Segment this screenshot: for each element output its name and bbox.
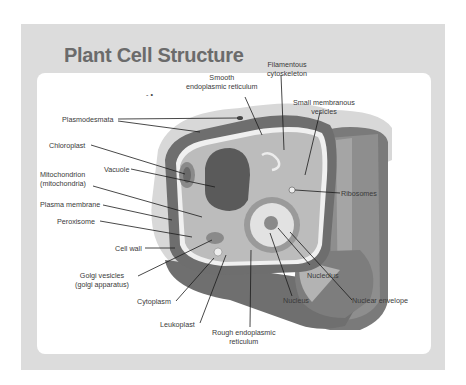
label-cytoplasm: Cytoplasm	[137, 297, 171, 306]
label-golgi-vesicles: Golgi vesicles (golgi apparatus)	[75, 271, 129, 289]
golgi-apparatus	[206, 232, 224, 244]
vacuole	[205, 148, 250, 211]
label-mitochondrion: Mitochondrion (mitochondria)	[40, 170, 86, 188]
nucleolus	[264, 216, 278, 230]
label-peroxisome: Peroxisome	[57, 217, 95, 226]
label-nuclear-envelope: Nuclear envelope	[352, 296, 408, 305]
label-filamentous-cytoskeleton: Filamentous cytoskeleton	[267, 60, 307, 78]
label-plasma-membrane: Plasma membrane	[40, 200, 100, 209]
label-cell-wall: Cell wall	[115, 244, 142, 253]
label-vacuole: Vacuole	[104, 165, 129, 174]
label-plasmodesmata: Plasmodesmata	[62, 115, 114, 124]
label-small-membranous-vesicles: Small membranous vesicles	[293, 98, 355, 116]
label-nucleolus: Nucleolus	[307, 271, 339, 280]
leukoplast	[214, 248, 222, 256]
ribosome	[289, 187, 295, 193]
decorative-marks: - •	[146, 90, 153, 99]
label-leukoplast: Leukoplast	[160, 320, 195, 329]
label-ribosomes: Ribosomes	[341, 189, 377, 198]
label-rough-er: Rough endoplasmic reticulum	[212, 328, 276, 346]
label-chloroplast: Chloroplast	[49, 141, 85, 150]
label-smooth-er: Smooth endoplasmic reticulum	[186, 73, 258, 91]
label-nucleus: Nucleus	[283, 296, 309, 305]
